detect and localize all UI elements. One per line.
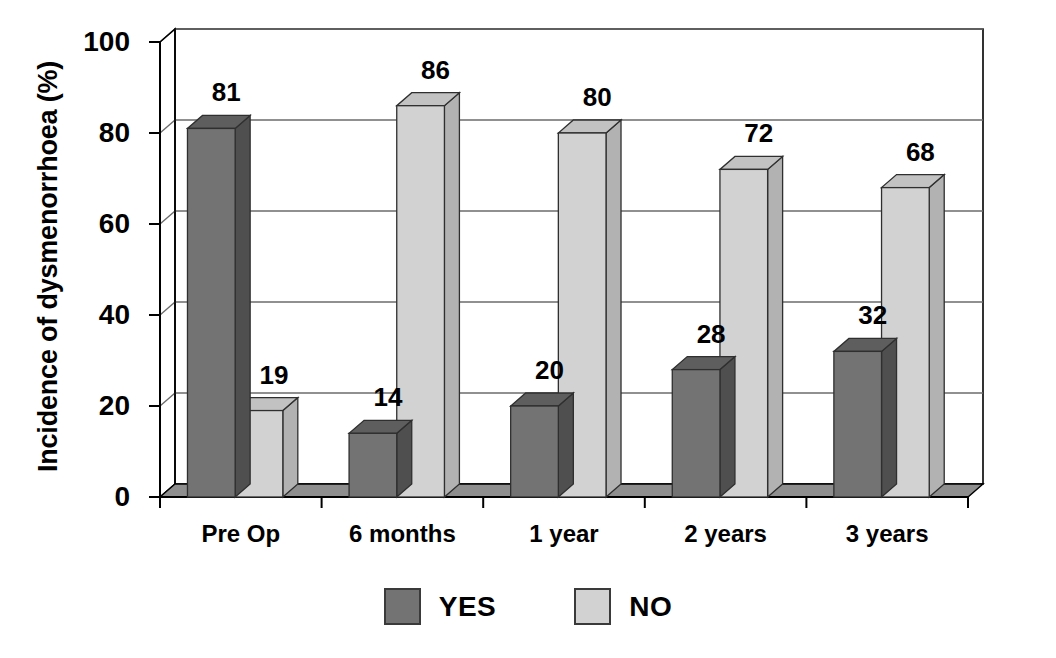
legend-swatch-icon-no (574, 588, 611, 625)
legend-item-no: NO (574, 588, 672, 625)
legend-swatch-icon-yes (384, 588, 421, 625)
value-label-yes-2: 20 (535, 357, 564, 383)
x-tick-label-4: 3 years (846, 520, 929, 548)
bar-yes-2 (511, 393, 574, 497)
x-tick-label-3: 2 years (684, 520, 767, 548)
x-tick-label-0: Pre Op (201, 520, 280, 548)
x-tick-label-1: 6 months (349, 520, 456, 548)
value-label-no-4: 68 (906, 139, 935, 165)
bar-yes-1 (349, 420, 412, 497)
value-label-no-1: 86 (421, 57, 450, 83)
bar-yes-0 (187, 115, 250, 497)
chart-legend: YESNO (0, 588, 1056, 625)
bar-chart-figure: Incidence of dysmenorrhoea (%) 020406080… (0, 0, 1056, 658)
bar-yes-4 (834, 338, 897, 497)
value-label-no-2: 80 (583, 84, 612, 110)
legend-label: NO (629, 591, 672, 623)
value-label-yes-3: 28 (697, 321, 726, 347)
bar-yes-3 (672, 357, 735, 497)
value-label-yes-1: 14 (373, 384, 402, 410)
value-label-yes-0: 81 (212, 79, 241, 105)
legend-label: YES (439, 591, 497, 623)
value-label-no-3: 72 (744, 120, 773, 146)
plot-area (0, 0, 1056, 658)
x-tick-label-2: 1 year (529, 520, 598, 548)
value-label-no-0: 19 (260, 362, 289, 388)
value-label-yes-4: 32 (858, 302, 887, 328)
legend-item-yes: YES (384, 588, 497, 625)
